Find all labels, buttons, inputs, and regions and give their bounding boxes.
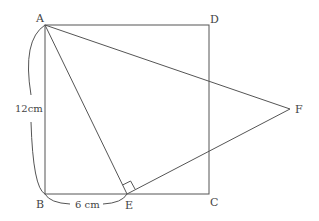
point-label-a: A xyxy=(35,12,45,25)
dimension-label-ab: 12cm xyxy=(15,103,43,114)
dimension-arc-ab-bottom xyxy=(31,122,45,194)
geometry-diagram: 12cm 6 cm A B C D E F xyxy=(0,0,319,221)
dimension-label-be: 6 cm xyxy=(75,199,100,210)
point-label-d: D xyxy=(210,13,219,26)
dimension-arc-be-left xyxy=(45,194,70,204)
segment-ae xyxy=(45,25,127,194)
dimension-arc-ab-top xyxy=(28,25,45,95)
point-label-f: F xyxy=(295,103,303,116)
dimension-arc-be-right xyxy=(103,194,127,204)
point-label-b: B xyxy=(36,198,44,211)
segment-af xyxy=(45,25,290,109)
point-label-e: E xyxy=(125,199,133,212)
point-label-c: C xyxy=(210,196,218,209)
square-abcd xyxy=(45,25,209,194)
